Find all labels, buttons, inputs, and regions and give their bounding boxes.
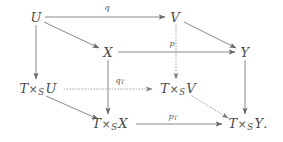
- subscript-S: S: [111, 122, 118, 132]
- node-X: X: [103, 46, 112, 59]
- node-U-label: U: [30, 10, 41, 25]
- node-T-symbol: T: [228, 116, 237, 131]
- edge-label-q-T-subscript: T: [121, 78, 125, 85]
- edge-label-p-T-subscript: T: [174, 114, 178, 121]
- subscript-S: S: [179, 87, 186, 97]
- node-V-factor: V: [186, 81, 196, 96]
- node-X-label: X: [103, 45, 112, 60]
- node-T-times-S-V: T×SV: [160, 82, 196, 96]
- node-T-symbol: T: [160, 81, 169, 96]
- edge-TxsV-to-TxsY: [192, 96, 228, 118]
- node-Y-factor: Y: [254, 116, 263, 131]
- times-symbol: ×: [101, 118, 111, 130]
- node-Y-label: Y: [241, 45, 250, 60]
- times-symbol: ×: [28, 83, 38, 95]
- edge-label-q: q: [104, 4, 109, 12]
- node-T-symbol: T: [19, 81, 28, 96]
- edge-label-p: p: [169, 40, 174, 48]
- node-X-factor: X: [118, 116, 127, 131]
- node-T-times-S-U: T×SU: [19, 82, 56, 96]
- node-U-factor: U: [45, 81, 56, 96]
- node-V: V: [170, 11, 180, 24]
- times-symbol: ×: [169, 83, 179, 95]
- node-U: U: [30, 11, 41, 24]
- node-T-times-S-X: T×SX: [92, 117, 127, 131]
- commutative-diagram: U V X Y T×SU T×SV T×SX T×SY. q p qT pT: [0, 0, 283, 142]
- node-T-times-S-Y: T×SY.: [228, 117, 267, 131]
- edge-label-q-T: qT: [115, 77, 124, 85]
- edge-label-q-text: q: [104, 3, 109, 12]
- edge-U-to-X: [44, 22, 99, 48]
- edge-TxsU-to-TxsX: [46, 96, 98, 119]
- times-symbol: ×: [237, 118, 247, 130]
- edge-label-p-T: pT: [168, 113, 177, 121]
- terminal-period: .: [263, 116, 267, 131]
- node-T-symbol: T: [92, 116, 101, 131]
- edge-V-to-Y: [184, 22, 236, 48]
- node-Y: Y: [241, 46, 250, 59]
- subscript-S: S: [38, 87, 45, 97]
- subscript-S: S: [247, 122, 254, 132]
- node-V-label: V: [170, 10, 180, 25]
- edge-label-p-text: p: [169, 39, 174, 48]
